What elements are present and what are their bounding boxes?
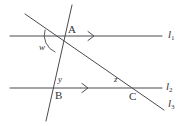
point-label-C: C <box>129 91 136 102</box>
line-l3 <box>25 14 164 110</box>
angle-label-y: y <box>58 75 62 84</box>
line-label-l3-sub: 3 <box>171 103 175 111</box>
diagram-canvas <box>0 0 186 126</box>
line-label-l1: l1 <box>168 29 175 40</box>
point-label-A: A <box>68 24 76 35</box>
line-label-l2-sub: 2 <box>169 86 173 94</box>
point-label-B: B <box>55 90 62 101</box>
line-label-l2: l2 <box>166 81 173 92</box>
line-label-l3: l3 <box>168 98 175 109</box>
angle-label-z: z <box>114 75 118 84</box>
geometry-diagram: A B C w y z l1 l2 l3 <box>0 0 186 126</box>
line-label-l1-sub: 1 <box>171 34 175 42</box>
angle-label-w: w <box>39 43 45 52</box>
